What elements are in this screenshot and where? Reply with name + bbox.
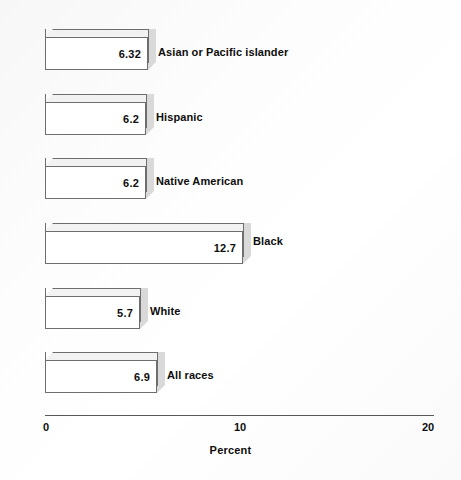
x-axis-title: Percent xyxy=(0,444,461,456)
bar-category-label: White xyxy=(150,305,180,317)
bar-side-face xyxy=(157,352,165,393)
bar-top-face xyxy=(45,158,146,166)
bar-category-label: Native American xyxy=(156,175,243,187)
x-tick-label-10: 10 xyxy=(234,421,246,433)
bar-hispanic[interactable]: 6.2 xyxy=(45,102,146,135)
x-axis-line xyxy=(45,415,434,416)
bar-value-label: 6.9 xyxy=(134,371,150,383)
bar-native-american[interactable]: 6.2 xyxy=(45,166,146,199)
bar-category-label: Asian or Pacific islander xyxy=(158,46,288,58)
bar-value-label: 5.7 xyxy=(117,307,133,319)
bar-edge xyxy=(45,352,46,361)
bar-all-races[interactable]: 6.9 xyxy=(45,360,157,393)
bar-edge xyxy=(146,94,147,128)
bar-category-label: All races xyxy=(167,369,214,381)
bar-top-face xyxy=(45,29,148,37)
bar-edge xyxy=(146,158,147,192)
bar-category-label: Hispanic xyxy=(156,111,203,123)
plot-area: 6.32 Asian or Pacific islander 6.2 Hispa… xyxy=(0,0,461,480)
x-tick-label-20: 20 xyxy=(422,421,434,433)
bar-top-face xyxy=(45,94,146,102)
bar-value-label: 6.2 xyxy=(123,113,139,125)
bar-top-face xyxy=(45,223,243,231)
bar-value-label: 6.2 xyxy=(123,177,139,189)
bar-value-label: 12.7 xyxy=(214,242,236,254)
bar-side-face xyxy=(146,94,154,135)
bar-side-face xyxy=(140,288,148,329)
bar-edge xyxy=(140,288,141,322)
bar-asian-or-pacific-islander[interactable]: 6.32 xyxy=(45,37,148,70)
bar-edge xyxy=(148,29,149,63)
bar-edge xyxy=(45,158,46,167)
bar-edge xyxy=(45,94,46,103)
bar-edge xyxy=(157,352,158,386)
bar-edge xyxy=(243,223,244,257)
bar-top-face xyxy=(45,288,140,296)
bar-edge xyxy=(45,223,46,232)
bar-side-face xyxy=(146,158,154,199)
bar-value-label: 6.32 xyxy=(119,48,141,60)
bar-side-face xyxy=(243,223,251,264)
bar-black[interactable]: 12.7 xyxy=(45,231,243,264)
x-tick-label-0: 0 xyxy=(43,421,49,433)
bar-top-face xyxy=(45,352,157,360)
bar-side-face xyxy=(148,29,156,70)
bar-category-label: Black xyxy=(253,235,283,247)
bar-chart: 6.32 Asian or Pacific islander 6.2 Hispa… xyxy=(0,0,461,480)
bar-edge xyxy=(45,288,46,297)
bar-white[interactable]: 5.7 xyxy=(45,296,140,329)
bar-edge xyxy=(45,29,46,38)
